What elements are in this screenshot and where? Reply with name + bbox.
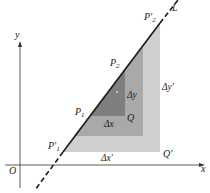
point-marker <box>116 91 118 93</box>
origin-label: O <box>9 165 16 176</box>
line-l-dashed-lower <box>35 152 63 190</box>
line-l-label: L <box>171 2 178 13</box>
delta-y-prime-label: Δy′ <box>161 82 175 92</box>
delta-x-prime-label: Δx′ <box>100 153 114 163</box>
p2-prime-label: P′2 <box>143 11 156 24</box>
x-axis-label: x <box>200 163 206 174</box>
p2-label: P2 <box>109 57 120 70</box>
delta-y-label: Δy <box>126 90 138 100</box>
p1-prime-label: P′1 <box>47 140 60 153</box>
q-label: Q <box>127 112 135 123</box>
q-prime-label: Q′ <box>163 148 173 159</box>
p1-label: P1 <box>74 106 85 119</box>
y-axis-label: y <box>14 29 20 40</box>
y-axis-arrow-icon <box>18 41 22 47</box>
delta-x-label: Δx <box>103 119 115 129</box>
slope-diagram: y x O L P′2 P2 P1 P′1 Q Q′ Δy Δx Δy′ Δx′ <box>0 0 210 193</box>
